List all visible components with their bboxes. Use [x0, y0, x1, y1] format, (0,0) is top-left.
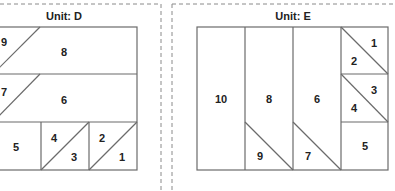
unit-d-piece-label: 9	[1, 36, 7, 48]
unit-e-piece-label: 9	[257, 150, 263, 162]
unit-d-piece-label: 5	[13, 141, 19, 153]
unit-d-block	[0, 27, 137, 170]
unit-d-piece-label: 1	[119, 151, 125, 163]
unit-d-piece-label: 3	[71, 151, 77, 163]
unit-d-row3-diagonal-1	[41, 122, 89, 170]
unit-e-piece-label: 6	[314, 93, 320, 105]
unit-e-piece-label: 7	[305, 150, 311, 162]
unit-e-col3-diagonal	[293, 122, 341, 170]
unit-e-piece-label: 3	[371, 84, 377, 96]
unit-d-title: Unit: D	[46, 10, 82, 22]
unit-e-piece-label: 8	[266, 93, 272, 105]
unit-e-col4-diagonal-1	[341, 27, 388, 74]
unit-d-row3-diagonal-2	[89, 122, 137, 170]
unit-d-row2-diagonal	[0, 74, 40, 122]
unit-d-row1-diagonal	[0, 27, 40, 74]
unit-d-piece-label: 8	[61, 46, 67, 58]
unit-d-outline	[0, 27, 137, 170]
unit-e-col2-diagonal	[245, 122, 293, 170]
unit-e-col4-diagonal-2	[341, 74, 388, 122]
unit-e-piece-label: 1	[371, 37, 377, 49]
unit-e-piece-label: 4	[351, 102, 357, 114]
unit-d-piece-label: 6	[61, 94, 67, 106]
unit-e-piece-label: 10	[215, 93, 227, 105]
unit-d-piece-label: 7	[1, 86, 7, 98]
unit-d-piece-label: 2	[99, 132, 105, 144]
unit-d-piece-label: 4	[51, 132, 57, 144]
unit-e-piece-label: 2	[351, 55, 357, 67]
unit-e-title: Unit: E	[275, 10, 310, 22]
quilt-unit-diagram	[0, 0, 395, 191]
unit-e-piece-label: 5	[362, 140, 368, 152]
